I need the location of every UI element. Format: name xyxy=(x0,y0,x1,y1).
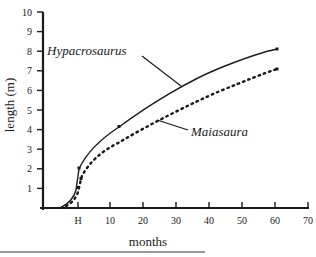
svg-text:10: 10 xyxy=(22,7,32,18)
label-maiasaura: Maiasaura xyxy=(190,124,249,139)
svg-text:70: 70 xyxy=(303,215,313,226)
leader-hypacrosaurus xyxy=(142,56,181,86)
svg-text:H: H xyxy=(74,215,81,226)
leader-maiasaura xyxy=(157,120,188,130)
svg-text:10: 10 xyxy=(105,215,115,226)
svg-text:30: 30 xyxy=(171,215,181,226)
x-tick-labels: H 10 20 30 40 50 60 70 xyxy=(74,215,313,226)
svg-text:60: 60 xyxy=(270,215,280,226)
svg-text:9: 9 xyxy=(27,26,32,37)
label-hypacrosaurus: Hypacrosaurus xyxy=(46,43,127,58)
svg-text:8: 8 xyxy=(27,46,32,57)
series-maiasaura-markers xyxy=(77,68,279,190)
svg-text:50: 50 xyxy=(237,215,247,226)
series-hypacrosaurus-markers xyxy=(78,48,279,170)
svg-text:6: 6 xyxy=(27,85,32,96)
growth-chart: 1 2 3 4 5 6 7 8 9 10 H 10 20 30 40 50 60… xyxy=(0,0,316,257)
svg-text:3: 3 xyxy=(27,144,32,155)
y-tick-labels: 1 2 3 4 5 6 7 8 9 10 xyxy=(22,7,32,194)
svg-text:5: 5 xyxy=(27,105,32,116)
svg-text:40: 40 xyxy=(204,215,214,226)
svg-text:1: 1 xyxy=(27,183,32,194)
y-axis-title: length (m) xyxy=(2,78,17,133)
svg-text:2: 2 xyxy=(27,163,32,174)
svg-text:20: 20 xyxy=(138,215,148,226)
svg-text:7: 7 xyxy=(27,65,32,76)
x-axis-title: months xyxy=(129,234,167,249)
svg-text:4: 4 xyxy=(27,124,32,135)
